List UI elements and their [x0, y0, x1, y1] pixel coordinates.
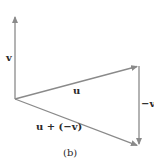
label-v: v — [6, 53, 12, 63]
vector-diagram — [0, 0, 154, 164]
label-u-plus-neg-v: u + (−v) — [36, 122, 82, 132]
label-neg-v: −v — [141, 99, 154, 109]
figure-caption: (b) — [63, 148, 77, 158]
label-u: u — [73, 86, 80, 96]
